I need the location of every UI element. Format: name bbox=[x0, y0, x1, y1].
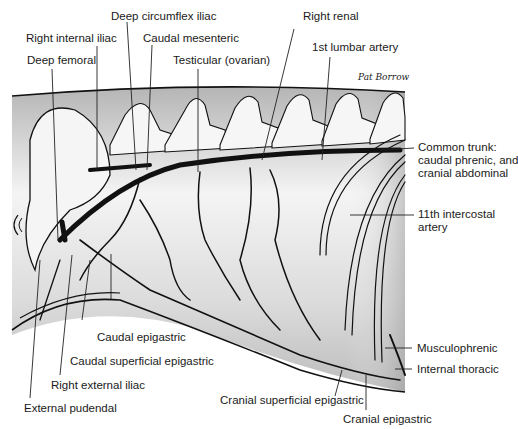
label-common-trunk: Common trunk: caudal phrenic, and crania… bbox=[418, 141, 518, 180]
label-internal-thoracic: Internal thoracic bbox=[417, 363, 499, 376]
label-common-trunk-line2: caudal phrenic, and bbox=[418, 154, 518, 167]
label-testicular-ovarian: Testicular (ovarian) bbox=[173, 54, 270, 67]
label-common-trunk-line3: cranial abdominal bbox=[418, 167, 518, 180]
label-eleventh-intercostal-line2: artery bbox=[418, 221, 495, 234]
label-deep-circumflex-iliac: Deep circumflex iliac bbox=[111, 10, 216, 23]
label-caudal-mesenteric: Caudal mesenteric bbox=[143, 32, 239, 45]
label-common-trunk-line1: Common trunk: bbox=[418, 141, 518, 154]
label-external-pudendal: External pudendal bbox=[24, 402, 117, 415]
label-right-external-iliac: Right external iliac bbox=[51, 379, 145, 392]
label-right-renal: Right renal bbox=[303, 10, 359, 23]
label-cranial-superficial-epigastric: Cranial superficial epigastric bbox=[220, 394, 364, 407]
label-eleventh-intercostal-line1: 11th intercostal bbox=[418, 208, 495, 221]
label-eleventh-intercostal: 11th intercostal artery bbox=[418, 208, 495, 234]
label-first-lumbar-artery: 1st lumbar artery bbox=[312, 41, 398, 54]
label-cranial-epigastric: Cranial epigastric bbox=[343, 413, 432, 426]
label-caudal-epigastric: Caudal epigastric bbox=[97, 331, 186, 344]
label-musculophrenic: Musculophrenic bbox=[417, 342, 498, 355]
artist-signature: Pat Borrow bbox=[357, 72, 410, 82]
label-caudal-superficial-epigastric: Caudal superficial epigastric bbox=[70, 355, 214, 368]
label-deep-femoral: Deep femoral bbox=[27, 54, 96, 67]
label-right-internal-iliac: Right internal iliac bbox=[26, 32, 117, 45]
